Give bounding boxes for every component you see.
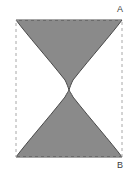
vertex-label-a: A [117, 5, 123, 14]
lower-shaded-region [16, 90, 122, 157]
upper-shaded-region [16, 20, 122, 90]
vertex-label-b: B [117, 161, 123, 170]
geometry-figure [0, 0, 140, 180]
figure-container: A B [0, 0, 140, 180]
